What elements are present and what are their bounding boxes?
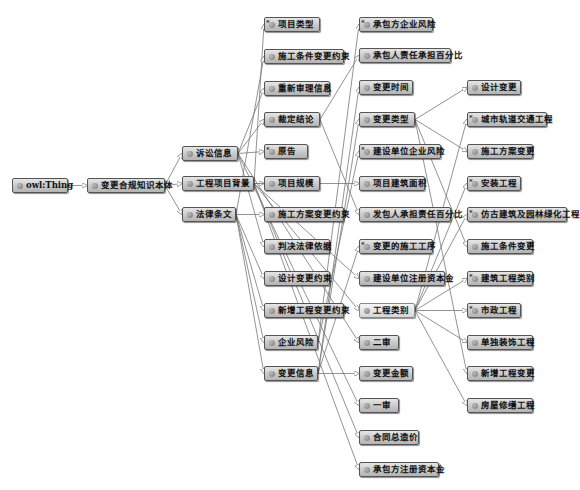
class-node-landscape[interactable]: *仿古建筑及园林绿化工程 (467, 207, 567, 222)
class-node-first-trial[interactable]: 一审 (359, 398, 399, 413)
class-node-contractor-capital[interactable]: 承包方注册资本金 (359, 462, 439, 477)
node-label: 建筑工程类别 (481, 272, 535, 285)
class-node-plaintiff[interactable]: *原告 (264, 144, 308, 159)
class-circle-icon (472, 85, 478, 91)
class-node-change-info[interactable]: 变更信息 (264, 366, 318, 381)
class-node-proj-scale[interactable]: 项目规模 (264, 176, 320, 191)
subclass-edge (415, 311, 467, 406)
class-node-proj-type[interactable]: *项目类型 (264, 17, 320, 32)
class-node-plan-constraint[interactable]: 施工方案变更约束 (264, 207, 344, 222)
class-node-contract-price[interactable]: 合同总造价 (359, 430, 419, 445)
class-circle-icon (364, 340, 370, 346)
node-label: 城市轨道交通工程 (481, 113, 553, 126)
class-node-build-category[interactable]: *建筑工程类别 (467, 271, 533, 286)
class-circle-icon (269, 117, 275, 123)
class-circle-icon (269, 371, 275, 377)
class-node-build-area[interactable]: 项目建筑面积 (359, 176, 425, 191)
class-circle-icon (92, 183, 98, 189)
class-node-cond-constraint[interactable]: 施工条件变更约束 (264, 49, 344, 64)
class-circle-icon (187, 181, 193, 187)
class-circle-icon (364, 308, 370, 314)
node-label: 新增工程变更 (481, 367, 535, 380)
class-node-project-bg[interactable]: 工程项目背景 (182, 176, 254, 191)
node-label: 一审 (373, 399, 391, 412)
class-node-ent-risk[interactable]: 企业风险 (264, 335, 318, 350)
class-node-contractor-pct[interactable]: 承包人责任承担百分比 (359, 48, 451, 63)
class-circle-icon (364, 371, 370, 377)
class-circle-icon (269, 54, 275, 60)
class-node-contractor-risk[interactable]: *承包方企业风险 (359, 17, 433, 32)
node-label: 建设单位企业风险 (373, 145, 445, 158)
node-label: 重新审理信息 (278, 82, 332, 95)
node-label: 市政工程 (481, 304, 517, 317)
subclass-edge (415, 88, 467, 120)
node-label: 裁定结论 (278, 113, 314, 126)
class-node-retrial[interactable]: 重新审理信息 (264, 81, 330, 96)
node-label: 设计变更 (481, 81, 517, 94)
class-node-owner-risk[interactable]: *建设单位企业风险 (359, 144, 441, 159)
class-circle-icon (472, 308, 478, 314)
class-node-new-change[interactable]: 新增工程变更 (467, 366, 533, 381)
node-label: 变更金额 (373, 367, 409, 380)
class-node-change-amount[interactable]: 变更金额 (359, 366, 413, 381)
node-label: 施工条件变更 (481, 240, 535, 253)
class-node-owner-capital[interactable]: 建设单位注册资本金 (359, 271, 445, 286)
node-label: 二审 (373, 336, 391, 349)
node-label: 变更的施工工序 (373, 240, 436, 253)
class-node-proj-category[interactable]: 工程类别 (359, 303, 415, 318)
class-circle-icon (364, 53, 370, 59)
node-label: 新增工程变更约束 (278, 304, 350, 317)
node-label: 项目类型 (278, 18, 314, 31)
node-label: 原告 (278, 145, 296, 158)
node-label: 判决法律依据 (278, 240, 332, 253)
class-circle-icon (269, 22, 275, 28)
node-label: 工程类别 (373, 304, 409, 317)
node-label: 合同总造价 (373, 431, 418, 444)
class-circle-icon (269, 308, 275, 314)
class-node-owl-thing[interactable]: owl:Thing (12, 178, 68, 193)
class-circle-icon (269, 340, 275, 346)
class-node-lawsuit[interactable]: 诉讼信息 (182, 146, 238, 161)
node-label: 施工条件变更约束 (278, 50, 350, 63)
class-node-verdict[interactable]: 裁定结论 (264, 112, 320, 127)
class-circle-icon (364, 276, 370, 282)
subclass-edge (320, 120, 359, 215)
node-label: 设计变更约束 (278, 272, 332, 285)
node-label: 变更类型 (373, 113, 409, 126)
node-label: 承包方注册资本金 (373, 463, 445, 476)
node-label: 承包人责任承担百分比 (373, 49, 463, 62)
class-node-legal-basis[interactable]: 判决法律依据 (264, 239, 330, 254)
class-node-changed-process[interactable]: *变更的施工工序 (359, 239, 433, 254)
subclass-edge (236, 215, 264, 343)
class-node-municipal[interactable]: *市政工程 (467, 303, 521, 318)
class-node-rail-transit[interactable]: *城市轨道交通工程 (467, 112, 547, 127)
node-label: 发包人承担责任百分比 (373, 208, 463, 221)
node-label: 施工方案变更 (481, 145, 535, 158)
class-circle-icon (269, 86, 275, 92)
class-circle-icon (364, 181, 370, 187)
class-node-cond-change[interactable]: 施工条件变更 (467, 239, 533, 254)
class-node-new-constraint[interactable]: 新增工程变更约束 (264, 303, 344, 318)
class-node-root[interactable]: 变更合规知识本体 (87, 178, 165, 193)
class-node-second-trial[interactable]: 二审 (359, 335, 399, 350)
class-node-change-type[interactable]: 变更类型 (359, 112, 415, 127)
node-label: 承包方企业风险 (373, 18, 436, 31)
subclass-edge (415, 311, 467, 343)
node-label: 项目建筑面积 (373, 177, 427, 190)
class-circle-icon (364, 22, 370, 28)
class-node-renovation[interactable]: 房屋修缮工程 (467, 398, 533, 413)
class-node-plan-change[interactable]: 施工方案变更 (467, 144, 533, 159)
class-node-design-change[interactable]: 设计变更 (467, 80, 521, 95)
class-node-change-time[interactable]: 变更时间 (359, 80, 413, 95)
class-circle-icon (269, 181, 275, 187)
class-circle-icon (364, 212, 370, 218)
class-node-decoration[interactable]: 单独装饰工程 (467, 335, 533, 350)
node-label: 仿古建筑及园林绿化工程 (481, 208, 580, 221)
class-circle-icon (269, 149, 275, 155)
class-node-law[interactable]: 法律条文 (182, 207, 236, 222)
class-node-design-constraint[interactable]: 设计变更约束 (264, 271, 330, 286)
node-label: 施工方案变更约束 (278, 208, 350, 221)
class-circle-icon (187, 151, 193, 157)
class-node-employer-pct[interactable]: 发包人承担责任百分比 (359, 207, 451, 222)
class-node-install[interactable]: *安装工程 (467, 176, 521, 191)
